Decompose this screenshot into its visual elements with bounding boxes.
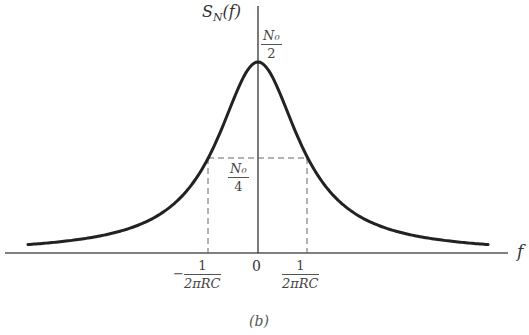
- peak-numerator: N₀: [261, 28, 282, 45]
- neg-cutoff-denominator: 2πRC: [184, 275, 221, 291]
- origin-label: 0: [252, 258, 261, 274]
- negative-cutoff-label: 1 2πRC: [184, 258, 221, 291]
- half-denominator: 4: [228, 178, 249, 194]
- neg-cutoff-numerator: 1: [184, 258, 221, 275]
- pos-cutoff-denominator: 2πRC: [282, 275, 319, 291]
- half-power-value-label: N₀ 4: [228, 161, 249, 194]
- negative-sign: −: [173, 266, 184, 281]
- x-axis-label: f: [517, 241, 523, 261]
- peak-denominator: 2: [261, 45, 282, 61]
- y-label-sub: N: [213, 11, 223, 24]
- peak-value-label: N₀ 2: [261, 28, 282, 61]
- pos-cutoff-numerator: 1: [282, 258, 319, 275]
- y-label-arg: (f): [223, 2, 241, 21]
- positive-cutoff-label: 1 2πRC: [282, 258, 319, 291]
- y-label-main: S: [202, 2, 213, 21]
- figure-caption: (b): [249, 313, 269, 329]
- half-numerator: N₀: [228, 161, 249, 178]
- y-axis-label: SN(f): [202, 2, 241, 24]
